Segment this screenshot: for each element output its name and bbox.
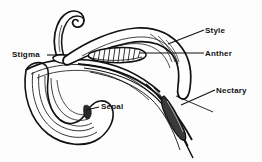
label-anther: Anther — [205, 49, 232, 59]
botanical-diagram-figure: Style Anther Nectary Stigma Sepal — [0, 0, 262, 162]
label-nectary: Nectary — [216, 86, 247, 96]
label-stigma: Stigma — [12, 50, 40, 60]
label-sepal: Sepal — [101, 102, 123, 112]
leader-line-nectary-secondary — [176, 96, 213, 112]
label-style: Style — [205, 26, 225, 36]
flower-section-drawing — [0, 0, 262, 162]
leader-line-style — [168, 30, 204, 44]
